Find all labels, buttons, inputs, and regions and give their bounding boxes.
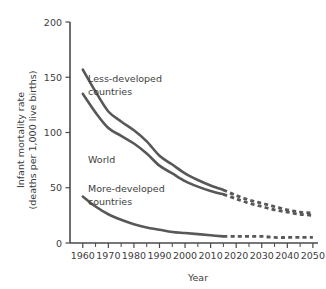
y-tick-label-200: 200 xyxy=(44,17,62,28)
x-tick-label-2050: 2050 xyxy=(301,250,325,261)
x-tick-label-2010: 2010 xyxy=(199,250,223,261)
series-line-projected-0 xyxy=(223,190,312,213)
x-tick-label-1990: 1990 xyxy=(147,250,171,261)
y-axis-tick-labels: 050100150200 xyxy=(44,17,62,249)
series-label-more-developed: More-developed countries xyxy=(88,183,165,207)
series-line-observed-1 xyxy=(83,94,224,195)
x-tick-label-1980: 1980 xyxy=(122,250,146,261)
y-tick-label-100: 100 xyxy=(44,127,62,138)
series-label-world: World xyxy=(88,154,115,165)
x-tick-label-2030: 2030 xyxy=(250,250,274,261)
x-tick-label-1960: 1960 xyxy=(71,250,95,261)
chart-canvas: 050100150200 196019701980199020002010202… xyxy=(0,0,326,289)
x-axis-tick-labels: 1960197019801990200020102020203020402050 xyxy=(71,250,325,261)
series-label-less-developed-line2: countries xyxy=(88,86,132,97)
x-tick-label-1970: 1970 xyxy=(96,250,120,261)
x-tick-label-2020: 2020 xyxy=(224,250,248,261)
x-tick-label-2000: 2000 xyxy=(173,250,197,261)
x-axis-title: Year xyxy=(187,272,208,283)
series-label-less-developed-line1: Less-developed xyxy=(88,73,162,84)
series-line-projected-2 xyxy=(223,236,312,237)
infant-mortality-chart: 050100150200 196019701980199020002010202… xyxy=(0,0,326,289)
x-tick-label-2040: 2040 xyxy=(275,250,299,261)
y-tick-label-0: 0 xyxy=(56,238,62,249)
y-tick-label-50: 50 xyxy=(50,182,62,193)
series-label-less-developed: Less-developed countries xyxy=(88,73,162,97)
y-axis-title-line1: Infant mortality rate xyxy=(15,92,26,188)
series-label-more-developed-line2: countries xyxy=(88,196,132,207)
y-axis-group: 050100150200 xyxy=(44,17,70,249)
series-label-more-developed-line1: More-developed xyxy=(88,183,165,194)
y-axis-title-line2: (deaths per 1,000 live births) xyxy=(27,71,38,210)
x-axis-group: 1960197019801990200020102020203020402050 xyxy=(70,243,325,261)
y-tick-label-150: 150 xyxy=(44,72,62,83)
y-axis-title: Infant mortality rate (deaths per 1,000 … xyxy=(15,71,38,210)
